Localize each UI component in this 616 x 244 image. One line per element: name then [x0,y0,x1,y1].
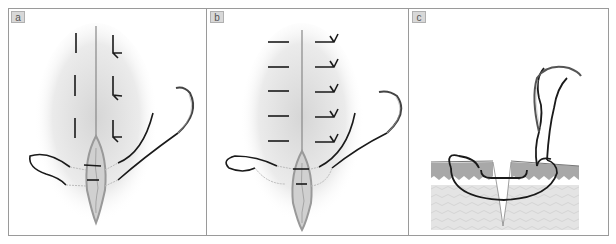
panel-a: a [8,8,206,236]
panel-label-c: c [412,11,426,23]
panel-c-illustration [409,8,610,236]
panel-b: b [206,8,408,236]
panel-c: c [408,8,609,236]
panel-b-illustration [207,8,409,236]
panel-a-illustration [8,8,206,236]
panel-label-a: a [11,11,25,23]
panel-label-b: b [210,11,224,23]
